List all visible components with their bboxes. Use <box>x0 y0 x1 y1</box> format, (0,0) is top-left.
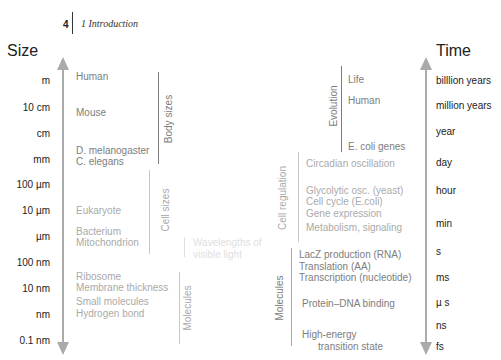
chapter-title: 1 Introduction <box>81 18 138 29</box>
size-tick: µm <box>0 231 50 242</box>
size-tick: cm <box>0 128 50 139</box>
molecule-size-item: Hydrogen bond <box>76 308 144 319</box>
size-tick: 100 nm <box>0 257 50 268</box>
body-size-item: C. elegans <box>76 156 124 167</box>
size-tick: 10 nm <box>0 283 50 294</box>
molecules-time-label: Molecules <box>274 270 286 326</box>
cell-size-item: Mitochondrion <box>76 237 139 248</box>
size-tick: m <box>0 75 50 86</box>
cell-size-item: Eukaryote <box>76 205 121 216</box>
molecule-size-item: Membrane thickness <box>76 282 168 293</box>
cell-regulation-label: Cell regulation <box>277 155 289 241</box>
cell-size-item: Bacterium <box>76 226 121 237</box>
wavelengths-bracket <box>184 237 185 257</box>
time-tick: fs <box>436 341 444 352</box>
cell-regulation-item: Metabolism, signaling <box>306 222 402 233</box>
time-axis-line <box>425 68 427 344</box>
wavelengths-label: visible light <box>193 249 242 260</box>
time-axis-title: Time <box>436 42 471 60</box>
body-sizes-label: Body sizes <box>163 84 175 154</box>
cell-regulation-bracket <box>298 152 299 242</box>
size-axis-title: Size <box>7 42 38 60</box>
cell-regulation-item: Cell cycle (E.coli) <box>306 196 383 207</box>
size-tick: mm <box>0 154 50 165</box>
size-tick: 10 µm <box>0 205 50 216</box>
body-sizes-bracket <box>158 72 159 164</box>
molecules-size-label: Molecules <box>182 280 194 336</box>
wavelengths-label: Wavelengths of <box>193 237 262 248</box>
time-tick: ms <box>436 272 449 283</box>
cell-regulation-item: Circadian oscillation <box>306 158 395 169</box>
size-tick: 10 cm <box>0 102 50 113</box>
evolution-item: E. coli genes <box>348 141 405 152</box>
cell-sizes-label: Cell sizes <box>160 180 172 240</box>
cell-regulation-item: Glycolytic osc. (yeast) <box>306 185 403 196</box>
time-tick: hour <box>436 185 456 196</box>
time-tick: µ s <box>436 297 450 308</box>
body-size-item: Mouse <box>76 107 106 118</box>
molecules-time-bracket <box>291 248 292 346</box>
evolution-label: Evolution <box>328 76 340 136</box>
molecule-time-item: High-energy <box>302 329 356 340</box>
molecule-size-item: Ribosome <box>76 271 121 282</box>
size-tick: 0.1 nm <box>0 335 50 346</box>
size-axis-arrow-down-icon <box>57 342 69 355</box>
header-divider <box>72 12 73 34</box>
time-tick: billlion years <box>436 75 491 86</box>
molecule-size-item: Small molecules <box>76 296 149 307</box>
page-number: 4 <box>63 19 69 30</box>
time-axis-arrow-down-icon <box>420 342 432 355</box>
size-tick: 100 µm <box>0 179 50 190</box>
size-axis-line <box>62 68 64 344</box>
molecule-time-item: transition state <box>318 341 383 352</box>
molecule-time-item: Translation (AA) <box>299 261 371 272</box>
molecule-time-item: Protein–DNA binding <box>302 298 395 309</box>
molecule-time-item: Transcription (nucleotide) <box>299 272 411 283</box>
time-tick: million years <box>436 100 492 111</box>
evolution-bracket <box>341 66 342 152</box>
evolution-item: Human <box>348 95 380 106</box>
time-tick: year <box>436 126 455 137</box>
body-size-item: D. melanogaster <box>76 145 149 156</box>
time-tick: s <box>436 246 441 257</box>
evolution-item: Life <box>348 74 364 85</box>
time-tick: day <box>436 157 452 168</box>
time-tick: ns <box>436 320 447 331</box>
body-size-item: Human <box>76 71 108 82</box>
molecules-size-bracket <box>179 272 180 344</box>
cell-regulation-item: Gene expression <box>306 208 382 219</box>
time-tick: min <box>436 218 452 229</box>
cell-sizes-bracket <box>149 170 150 254</box>
molecule-time-item: LacZ production (RNA) <box>299 249 401 260</box>
size-tick: nm <box>0 309 50 320</box>
